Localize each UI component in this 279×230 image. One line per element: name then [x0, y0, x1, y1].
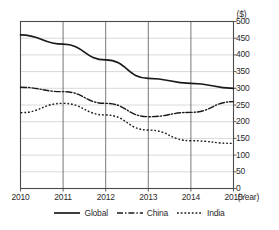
- y-tick-label: 400: [236, 49, 250, 59]
- x-tick-label: 2010: [7, 192, 35, 202]
- line-chart: ($) 050100150200250300350400450500 20102…: [0, 0, 279, 230]
- y-tick-label: 500: [236, 16, 250, 26]
- legend-swatch-solid-icon: [54, 209, 80, 217]
- axis-tick-marks: [21, 22, 237, 192]
- series-line-global: [21, 35, 234, 88]
- legend-swatch-dash-dot-icon: [117, 209, 143, 217]
- x-tick-label: 2013: [134, 192, 162, 202]
- y-tick-label: 350: [236, 66, 250, 76]
- data-series-lines: [21, 35, 234, 144]
- y-tick-label: 450: [236, 33, 250, 43]
- y-tick-label: 200: [236, 116, 250, 126]
- y-tick-label: 300: [236, 83, 250, 93]
- series-line-india: [21, 103, 234, 143]
- x-tick-label: 2011: [49, 192, 77, 202]
- chart-legend: GlobalChinaIndia: [0, 208, 279, 218]
- x-tick-label: 2012: [92, 192, 120, 202]
- horizontal-gridlines: [21, 22, 234, 172]
- y-tick-label: 250: [236, 100, 250, 110]
- legend-item-global[interactable]: Global: [54, 208, 107, 218]
- legend-label: India: [207, 208, 224, 218]
- x-tick-label: 2014: [177, 192, 205, 202]
- y-tick-label: 50: [236, 166, 245, 176]
- legend-label: China: [147, 208, 168, 218]
- legend-label: Global: [84, 208, 107, 218]
- y-tick-label: 100: [236, 150, 250, 160]
- legend-item-china[interactable]: China: [117, 208, 168, 218]
- x-axis-unit-label: (Year): [238, 192, 260, 202]
- legend-item-india[interactable]: India: [177, 208, 224, 218]
- series-line-china: [21, 87, 234, 116]
- y-tick-label: 150: [236, 133, 250, 143]
- legend-swatch-dotted-icon: [177, 209, 203, 217]
